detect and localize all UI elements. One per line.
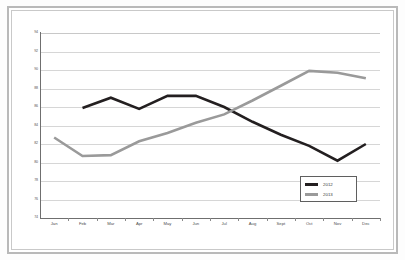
- y-axis-tick-labels: 7476788082848688909294: [22, 33, 38, 218]
- x-tick-label: Oct: [306, 222, 313, 226]
- x-tick-label: May: [164, 222, 172, 226]
- scanned-page-background: 7476788082848688909294 JanFebMarAprMayJu…: [0, 0, 405, 260]
- x-tick-label: Jan: [51, 222, 58, 226]
- y-tick-label: 86: [24, 105, 38, 109]
- x-tick-mark: [380, 218, 381, 221]
- x-tick-mark: [153, 218, 154, 221]
- x-tick-mark: [210, 218, 211, 221]
- y-tick-label: 94: [24, 31, 38, 35]
- x-tick-label: Jun: [192, 222, 199, 226]
- x-tick-label: Aug: [249, 222, 256, 226]
- x-tick-mark: [182, 218, 183, 221]
- y-tick-label: 92: [24, 50, 38, 54]
- x-tick-mark: [323, 218, 324, 221]
- y-tick-label: 78: [24, 179, 38, 183]
- x-tick-label: Nov: [334, 222, 341, 226]
- y-tick-label: 90: [24, 68, 38, 72]
- series-line-2012: [83, 96, 366, 161]
- x-tick-label: Sept: [277, 222, 286, 226]
- legend-swatch-2013: [305, 193, 318, 196]
- x-tick-mark: [125, 218, 126, 221]
- legend-item-2013: 2013: [305, 190, 355, 199]
- y-tick-label: 82: [24, 142, 38, 146]
- y-tick-label: 84: [24, 124, 38, 128]
- x-tick-mark: [68, 218, 69, 221]
- series-line-2013: [54, 71, 366, 156]
- x-axis-tick-labels: JanFebMarAprMayJunJulAugSeptOctNovDec: [40, 222, 380, 236]
- x-tick-mark: [267, 218, 268, 221]
- x-tick-label: Mar: [107, 222, 114, 226]
- legend-label-2012: 2012: [323, 181, 333, 189]
- x-tick-mark: [238, 218, 239, 221]
- x-tick-mark: [352, 218, 353, 221]
- legend-label-2013: 2013: [323, 191, 333, 199]
- x-tick-label: Dec: [362, 222, 369, 226]
- y-tick-label: 80: [24, 161, 38, 165]
- legend-swatch-2012: [305, 183, 318, 186]
- x-tick-label: Apr: [136, 222, 143, 226]
- x-tick-mark: [295, 218, 296, 221]
- x-tick-mark: [97, 218, 98, 221]
- y-tick-label: 76: [24, 198, 38, 202]
- legend-item-2012: 2012: [305, 180, 355, 189]
- chart-legend: 2012 2013: [300, 176, 357, 202]
- y-tick-label: 74: [24, 216, 38, 220]
- x-tick-label: Feb: [79, 222, 86, 226]
- x-tick-label: Jul: [221, 222, 226, 226]
- line-chart: 7476788082848688909294 JanFebMarAprMayJu…: [0, 0, 405, 260]
- y-tick-label: 88: [24, 87, 38, 91]
